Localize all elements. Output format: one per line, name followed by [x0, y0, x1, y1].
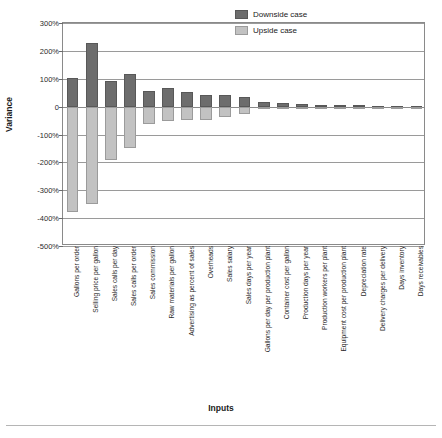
x-category-label: Sales salary: [227, 246, 234, 282]
bar: [105, 81, 117, 107]
bar: [219, 107, 231, 118]
bar: [67, 107, 79, 212]
y-tick-label: 200%: [40, 46, 59, 55]
bar-group: [239, 23, 251, 244]
y-tick-label: 0: [55, 102, 59, 111]
bar: [200, 95, 212, 106]
bar: [124, 74, 136, 107]
x-category-label: Equipment cost per production plant: [341, 246, 348, 352]
x-category-label: Depreciation rate: [361, 246, 368, 296]
bar-group: [86, 23, 98, 244]
legend-swatch: [235, 10, 248, 19]
x-category-label: Raw materials per gallon: [169, 246, 176, 319]
x-category-label: Days receivables: [418, 246, 425, 296]
bar-group: [67, 23, 79, 244]
y-tick-label: -500%: [37, 242, 59, 251]
bar-group: [105, 23, 117, 244]
bar: [124, 107, 136, 148]
bar: [334, 107, 346, 109]
bar: [239, 97, 251, 107]
bar: [277, 107, 289, 109]
bar-group: [353, 23, 365, 244]
x-category-label: Production days per year: [303, 246, 310, 319]
bar-group: [200, 23, 212, 244]
bar-group: [124, 23, 136, 244]
legend-label: Downside case: [253, 10, 307, 19]
legend-entry: Upside case: [235, 24, 307, 37]
x-category-label: Gallons per day per production plant: [265, 246, 272, 352]
bar: [86, 43, 98, 107]
bar: [162, 88, 174, 106]
bar: [143, 107, 155, 124]
bar: [353, 107, 365, 109]
x-axis-category-labels: Gallons per orderSelling price per gallo…: [62, 246, 425, 391]
legend-label: Upside case: [253, 26, 297, 35]
x-category-label: Production workers per plant: [322, 246, 329, 330]
y-tick-label: -100%: [37, 130, 59, 139]
x-category-label: Sales days per year: [246, 246, 253, 304]
legend-entry: Downside case: [235, 8, 307, 21]
plot-area: 300%200%100%0-100%-200%-300%-400%-500%: [62, 22, 425, 245]
legend-swatch: [235, 26, 248, 35]
bar: [296, 107, 308, 109]
chart-page: Variance 300%200%100%0-100%-200%-300%-40…: [0, 0, 442, 438]
y-tick-label: 100%: [40, 74, 59, 83]
x-category-label: Gallons per order: [74, 246, 81, 297]
x-category-label: Days inventory: [399, 246, 406, 290]
footer-divider: [6, 425, 436, 426]
bar: [67, 78, 79, 107]
y-tick-label: 300%: [40, 19, 59, 28]
x-category-label: Delivery charges per delivery: [380, 246, 387, 331]
bar: [105, 107, 117, 160]
x-category-label: Advertising as percent of sales: [189, 246, 196, 336]
bar-group: [181, 23, 193, 244]
x-category-label: Sales calls per day: [112, 246, 119, 301]
x-category-label: Sales calls per order: [131, 246, 138, 306]
bars-group: [63, 23, 424, 244]
bar: [239, 107, 251, 115]
chart-legend: Downside caseUpside case: [232, 6, 310, 42]
bar: [315, 107, 327, 109]
bar: [219, 95, 231, 107]
bar-group: [315, 23, 327, 244]
bar: [200, 107, 212, 120]
bar-group: [143, 23, 155, 244]
bar: [86, 107, 98, 204]
bar-group: [277, 23, 289, 244]
y-tick-label: -400%: [37, 214, 59, 223]
bar-group: [296, 23, 308, 244]
x-axis-title: Inputs: [0, 403, 442, 413]
bar: [181, 107, 193, 121]
y-tick-label: -300%: [37, 186, 59, 195]
bar: [258, 107, 270, 110]
bar: [372, 107, 384, 109]
bar-group: [411, 23, 423, 244]
bar-group: [372, 23, 384, 244]
bar-group: [334, 23, 346, 244]
bar: [162, 107, 174, 121]
y-tick-label: -200%: [37, 158, 59, 167]
x-category-label: Overheads: [208, 246, 215, 278]
bar: [181, 92, 193, 106]
x-category-label: Sales commission: [150, 246, 157, 299]
bar: [411, 107, 423, 109]
bar-group: [258, 23, 270, 244]
bar-group: [391, 23, 403, 244]
bar: [143, 91, 155, 107]
bar-group: [219, 23, 231, 244]
y-axis-title: Variance: [4, 118, 14, 132]
x-category-label: Selling price per gallon: [93, 246, 100, 313]
x-category-label: Container cost per gallon: [284, 246, 291, 319]
bar-group: [162, 23, 174, 244]
bar: [391, 107, 403, 109]
